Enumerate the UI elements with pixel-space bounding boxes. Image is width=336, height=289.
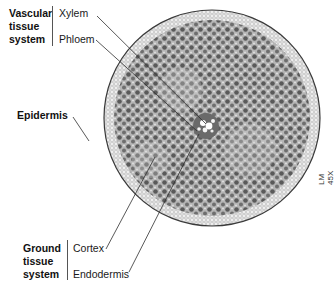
label-xylem: Xylem (59, 7, 88, 19)
label-cortex: Cortex (73, 242, 104, 254)
vascular-heading-line1: Vascular (9, 7, 52, 19)
ground-heading-line2: tissue (23, 255, 53, 267)
label-epidermis: Epidermis (17, 109, 68, 121)
vascular-cylinder (193, 113, 219, 139)
vascular-heading-line2: tissue (9, 20, 39, 32)
ground-heading-line3: system (23, 268, 59, 280)
vascular-bracket (52, 6, 53, 46)
magnification-label: LM 45X (317, 166, 335, 185)
vascular-heading-line3: system (9, 33, 45, 45)
ground-heading-line1: Ground (23, 242, 61, 254)
label-phloem: Phloem (59, 33, 95, 45)
leader-line-epidermis (73, 117, 89, 141)
ground-bracket (67, 240, 68, 280)
label-endodermis: Endodermis (73, 268, 129, 280)
